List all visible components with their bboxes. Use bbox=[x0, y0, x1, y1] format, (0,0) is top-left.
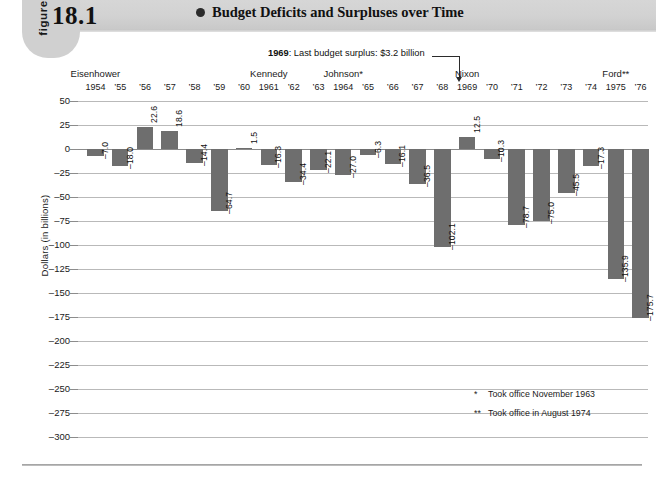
bar-value-label: –75.0 bbox=[546, 202, 556, 224]
bar-value-label: 22.6 bbox=[149, 106, 159, 123]
bar-value-label: –45.5 bbox=[571, 174, 581, 196]
bar bbox=[632, 149, 649, 318]
bottom-rule bbox=[22, 464, 642, 466]
footnote-marker: ** bbox=[474, 408, 488, 418]
bar-value-label: 12.5 bbox=[472, 116, 482, 133]
footnote-marker: * bbox=[474, 389, 488, 399]
bar bbox=[236, 148, 253, 149]
bar-value-label: –102.1 bbox=[447, 223, 457, 250]
bar-value-label: –16.1 bbox=[397, 145, 407, 167]
bar-value-label: –16.3 bbox=[273, 146, 283, 168]
bar-value-label: –175.7 bbox=[645, 294, 655, 321]
bar-value-label: –64.7 bbox=[224, 192, 234, 214]
bar bbox=[161, 131, 178, 149]
footnote-list: *Took office November 1963**Took office … bbox=[474, 389, 595, 427]
footnote: *Took office November 1963 bbox=[474, 389, 595, 399]
bar bbox=[459, 137, 476, 149]
bar-value-label: –34.4 bbox=[298, 163, 308, 185]
bar-value-label: –22.1 bbox=[323, 151, 333, 173]
footnote: **Took office in August 1974 bbox=[474, 408, 595, 418]
bar-value-label: –18.0 bbox=[125, 147, 135, 169]
bar-value-label: –10.3 bbox=[496, 140, 506, 162]
bar-value-label: 1.5 bbox=[249, 131, 259, 143]
bar-value-label: –7.0 bbox=[100, 142, 110, 159]
bar-value-label: –27.0 bbox=[348, 156, 358, 178]
bar-value-label: –78.7 bbox=[521, 206, 531, 228]
bar bbox=[137, 127, 154, 149]
footnote-text: Took office in August 1974 bbox=[488, 408, 591, 418]
chart-plot-area: 1969: Last budget surplus: $3.2 billion … bbox=[0, 0, 656, 477]
bar-value-label: –17.3 bbox=[596, 147, 606, 169]
footnote-text: Took office November 1963 bbox=[488, 389, 595, 399]
bar-value-label: –36.5 bbox=[422, 165, 432, 187]
bar-value-label: –135.9 bbox=[620, 256, 630, 283]
bar-value-label: –14.4 bbox=[199, 144, 209, 166]
bar-value-label: –6.3 bbox=[373, 141, 383, 158]
bar-value-label: 18.6 bbox=[174, 110, 184, 127]
